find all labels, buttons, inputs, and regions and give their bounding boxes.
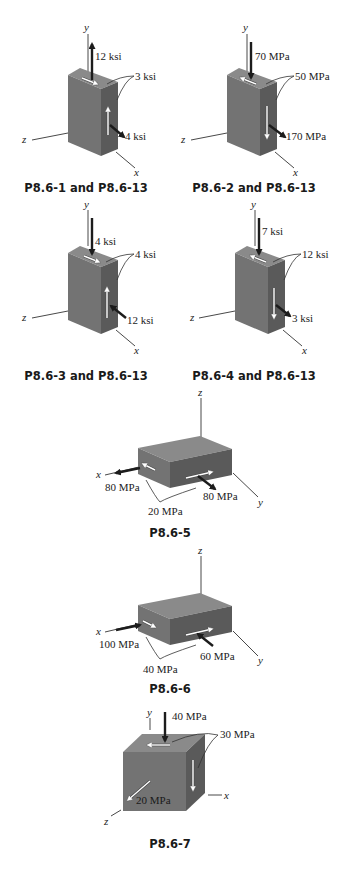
figure-p8-6-5: z x y 80 MPa 80 MPa 20 MPa P8.6-5 <box>95 386 263 540</box>
x-axis-label: x <box>133 166 139 178</box>
z-axis <box>32 133 68 140</box>
z-axis <box>199 311 235 318</box>
z-axis <box>191 133 227 140</box>
normal-stress-label-x: 170 MPa <box>286 130 326 142</box>
z-axis-label: z <box>21 311 27 323</box>
normal-stress-label-y: 40 MPa <box>172 710 207 722</box>
y-axis-label: y <box>83 198 89 210</box>
y-axis <box>233 631 258 656</box>
side-face <box>260 82 277 156</box>
figure-p8-6-3: y z x 4 ksi 4 ksi 12 ksi P8.6-3 and P8.6… <box>21 198 156 383</box>
x-axis-label: x <box>223 789 229 801</box>
z-axis-label: z <box>197 544 203 556</box>
figure-caption: P8.6-3 and P8.6-13 <box>24 369 147 383</box>
normal-stress-arrow-x <box>116 625 140 630</box>
figure-caption: P8.6-7 <box>149 837 191 851</box>
x-axis-label: x <box>95 625 101 637</box>
normal-stress-label-z: 20 MPa <box>136 794 171 806</box>
normal-stress-label-y: 60 MPa <box>200 650 235 662</box>
shear-stress-label: 30 MPa <box>220 728 255 740</box>
z-axis-label: z <box>189 311 195 323</box>
z-axis-label: z <box>21 133 27 145</box>
z-axis <box>32 311 68 318</box>
figure-caption: P8.6-1 and P8.6-13 <box>24 181 147 195</box>
normal-stress-label-y: 12 ksi <box>95 50 122 62</box>
leader-line <box>284 254 301 280</box>
x-axis <box>116 152 135 168</box>
z-axis-label: z <box>103 815 109 827</box>
figure-p8-6-1: y z x 12 ksi 3 ksi 4 ksi P8.6-1 and P8.6… <box>21 21 156 195</box>
figure-caption: P8.6-2 and P8.6-13 <box>192 181 315 195</box>
figure-p8-6-7: y x z 40 MPa 30 MPa 20 MPa P8.6-7 <box>103 706 255 851</box>
front-face <box>235 253 268 334</box>
x-axis <box>116 330 135 346</box>
normal-stress-label-y: 70 MPa <box>255 50 290 62</box>
figure-caption: P8.6-4 and P8.6-13 <box>192 369 315 383</box>
normal-stress-label-x: 80 MPa <box>105 481 140 493</box>
z-axis-label: z <box>180 133 186 145</box>
z-axis <box>111 810 121 816</box>
x-axis-label: x <box>95 468 101 480</box>
normal-stress-label-y: 7 ksi <box>262 225 283 237</box>
x-axis-label: x <box>133 344 139 356</box>
side-face <box>268 260 285 334</box>
front-face <box>68 75 101 156</box>
shear-stress-label: 3 ksi <box>135 70 156 82</box>
leader-line <box>276 76 294 100</box>
x-axis-label: x <box>292 166 298 178</box>
y-axis-label: y <box>257 654 263 666</box>
figure-caption: P8.6-6 <box>149 682 191 696</box>
y-axis-label: y <box>242 21 248 33</box>
shear-stress-label: 4 ksi <box>135 248 156 260</box>
normal-stress-label-x: 100 MPa <box>99 638 139 650</box>
figure-caption: P8.6-5 <box>149 526 191 540</box>
leader-line <box>117 76 134 100</box>
side-face <box>101 260 118 334</box>
normal-stress-label-y: 4 ksi <box>95 235 116 247</box>
shear-stress-label: 20 MPa <box>148 505 183 517</box>
x-axis <box>283 330 302 346</box>
x-axis-label: x <box>301 344 307 356</box>
figure-p8-6-4: y z x 7 ksi 12 ksi 3 ksi P8.6-4 and P8.6… <box>189 198 329 383</box>
front-face <box>68 253 101 334</box>
normal-stress-arrow-x <box>116 468 140 473</box>
figure-p8-6-6: z x y 100 MPa 60 MPa 40 MPa P8.6-6 <box>95 544 263 696</box>
normal-stress-label-y: 80 MPa <box>203 490 238 502</box>
normal-stress-label-x: 3 ksi <box>292 312 313 324</box>
shear-stress-label: 50 MPa <box>295 70 330 82</box>
normal-stress-label-x: 4 ksi <box>125 130 146 142</box>
y-axis-label: y <box>146 706 152 718</box>
x-axis <box>275 152 294 168</box>
y-axis-label: y <box>257 496 263 508</box>
front-face <box>227 75 260 156</box>
y-axis-label: y <box>250 198 256 210</box>
z-axis-label: z <box>197 386 203 398</box>
leader-line <box>117 254 134 280</box>
figure-p8-6-2: y z x 70 MPa 50 MPa 170 MPa P8.6-2 and P… <box>180 21 330 195</box>
stress-element-figure-sheet: y z x 12 ksi 3 ksi 4 ksi P8.6-1 and P8.6… <box>0 0 338 881</box>
side-face <box>101 82 118 156</box>
y-axis-label: y <box>83 21 89 33</box>
normal-stress-label-x: 12 ksi <box>127 314 154 326</box>
shear-stress-label: 40 MPa <box>143 663 178 675</box>
shear-stress-label: 12 ksi <box>302 248 329 260</box>
